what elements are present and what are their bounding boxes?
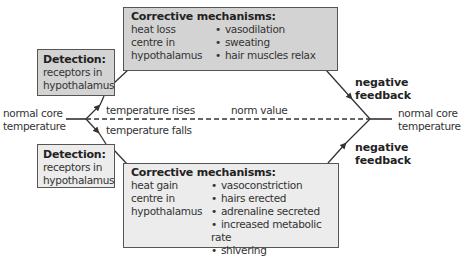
mechanism-item: vasoconstriction bbox=[211, 179, 338, 192]
mechanism-item: increased metabolic rate bbox=[211, 218, 338, 244]
heat-gain-centre: heat gain centre in hypothalamus bbox=[131, 179, 207, 257]
temperature-falls-label: temperature falls bbox=[106, 124, 192, 137]
temperature-rises-label: temperature rises bbox=[106, 104, 195, 117]
centre-line: heat gain bbox=[131, 179, 207, 192]
mechanism-item: hair muscles relax bbox=[215, 49, 316, 62]
right-normal-core-label: normal core temperature bbox=[398, 107, 461, 133]
top-negative-feedback-label: negative feedback bbox=[355, 76, 411, 102]
detection-line: hypothalamus bbox=[43, 79, 114, 92]
label-line: temperature bbox=[398, 120, 461, 133]
feedback-line: negative bbox=[355, 141, 411, 154]
bottom-corrective-box: Corrective mechanisms: heat gain centre … bbox=[123, 163, 339, 248]
left-normal-core-label: normal core temperature bbox=[3, 107, 66, 133]
norm-value-label: norm value bbox=[231, 104, 287, 117]
label-line: normal core bbox=[398, 107, 461, 120]
warming-mechanisms-list: vasoconstriction hairs erected adrenalin… bbox=[211, 179, 338, 257]
mechanism-item: adrenaline secreted bbox=[211, 205, 338, 218]
label-line: normal core bbox=[3, 107, 66, 120]
top-corrective-box: Corrective mechanisms: heat loss centre … bbox=[123, 7, 338, 71]
cooling-mechanisms-list: vasodilation sweating hair muscles relax bbox=[215, 23, 316, 62]
top-detection-box: Detection: receptors in hypothalamus bbox=[37, 49, 115, 96]
detection-title: Detection: bbox=[43, 53, 114, 66]
detection-line: receptors in bbox=[43, 66, 114, 79]
corrective-title: Corrective mechanisms: bbox=[131, 166, 338, 179]
feedback-line: feedback bbox=[355, 154, 411, 167]
detection-line: hypothalamus bbox=[43, 174, 114, 187]
centre-line: hypothalamus bbox=[131, 49, 211, 62]
corrective-title: Corrective mechanisms: bbox=[131, 10, 337, 23]
centre-line: centre in bbox=[131, 192, 207, 205]
centre-line: heat loss bbox=[131, 23, 211, 36]
bottom-detection-box: Detection: receptors in hypothalamus bbox=[37, 144, 115, 188]
heat-loss-centre: heat loss centre in hypothalamus bbox=[131, 23, 211, 62]
centre-line: hypothalamus bbox=[131, 205, 207, 218]
centre-line: centre in bbox=[131, 36, 211, 49]
feedback-line: feedback bbox=[355, 89, 411, 102]
detection-line: receptors in bbox=[43, 161, 114, 174]
mechanism-item: vasodilation bbox=[215, 23, 316, 36]
mechanism-item: hairs erected bbox=[211, 192, 338, 205]
mechanism-item: shivering bbox=[211, 244, 338, 257]
feedback-line: negative bbox=[355, 76, 411, 89]
bottom-negative-feedback-label: negative feedback bbox=[355, 141, 411, 167]
mechanism-item: sweating bbox=[215, 36, 316, 49]
label-line: temperature bbox=[3, 120, 66, 133]
detection-title: Detection: bbox=[43, 148, 114, 161]
